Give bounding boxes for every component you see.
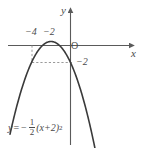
x-tick-label-minus-2: −2 — [43, 27, 55, 37]
x-axis-label: x — [131, 48, 136, 59]
fraction-denominator: 2 — [29, 127, 36, 137]
equation-label: y = − 1 2 (x+2) 2 — [8, 118, 63, 138]
y-tick-label-minus-2: −2 — [76, 57, 88, 67]
origin-label: O — [71, 41, 78, 51]
equation-sign: − — [20, 122, 28, 133]
x-tick-label-minus-4: −4 — [25, 27, 37, 37]
fraction-numerator: 1 — [29, 118, 36, 127]
equation-exponent: 2 — [59, 124, 63, 132]
equation-equals: = — [12, 122, 20, 133]
y-axis-label: y — [61, 5, 66, 16]
parabola-figure: y x O −4 −2 −2 y = − 1 2 (x+2) 2 — [0, 0, 143, 148]
equation-body: (x+2) — [36, 122, 59, 133]
equation-fraction: 1 2 — [29, 118, 36, 138]
